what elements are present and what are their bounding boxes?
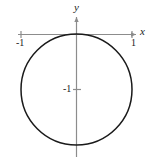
x-tick-label-positive-one: 1 <box>131 38 136 48</box>
coordinate-plane-svg <box>0 0 152 157</box>
y-axis-arrowhead <box>74 17 78 22</box>
x-tick-label-negative-one: -1 <box>16 38 24 48</box>
x-axis-label: x <box>140 26 145 37</box>
y-tick-label-negative-one: -1 <box>63 84 71 94</box>
y-axis-label: y <box>74 2 79 13</box>
math-figure-circle: y x -1 1 -1 <box>0 0 152 157</box>
